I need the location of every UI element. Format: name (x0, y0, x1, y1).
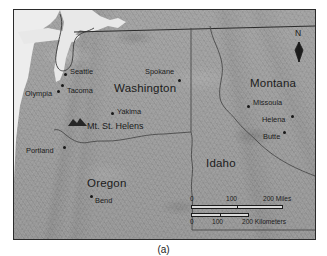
scale-miles-tick-200: 200 Miles (263, 196, 291, 203)
city-label-portland: Portland (26, 147, 54, 154)
city-label-seattle: Seattle (70, 68, 93, 75)
scale-bar-kilometers (191, 213, 249, 217)
state-label-washington: Washington (114, 83, 176, 95)
scale-miles-tick-0: 0 (190, 196, 194, 203)
mountain-peak-icon (68, 118, 87, 126)
city-label-spokane: Spokane (145, 68, 174, 75)
figure-caption: (a) (0, 244, 327, 255)
state-label-idaho: Idaho (206, 158, 236, 170)
city-label-helena: Helena (262, 116, 285, 123)
scale-bar-miles (191, 205, 283, 209)
map-canvas[interactable]: Washington Oregon Idaho Montana Seattle … (13, 9, 316, 240)
city-label-yakima: Yakima (117, 108, 141, 115)
city-label-bend: Bend (95, 197, 112, 204)
washington-oregon-border (54, 130, 191, 143)
scale-km-tick-200: 200 Kilometers (242, 219, 286, 226)
scale-km-tick-0: 0 (190, 219, 194, 226)
city-label-tacoma: Tacoma (67, 87, 93, 94)
scale-miles-tick-100: 100 (226, 196, 237, 203)
map-figure: Washington Oregon Idaho Montana Seattle … (0, 0, 327, 256)
scale-km-tick-100: 100 (212, 219, 223, 226)
city-label-missoula: Missoula (253, 99, 282, 106)
landmark-label-mt-st-helens: Mt. St. Helens (87, 122, 144, 131)
international-border (74, 26, 315, 32)
state-label-oregon: Oregon (87, 178, 127, 190)
city-label-olympia: Olympia (25, 90, 52, 97)
north-arrow-label: N (295, 29, 301, 38)
state-label-montana: Montana (250, 78, 296, 90)
city-label-butte: Butte (263, 133, 280, 140)
